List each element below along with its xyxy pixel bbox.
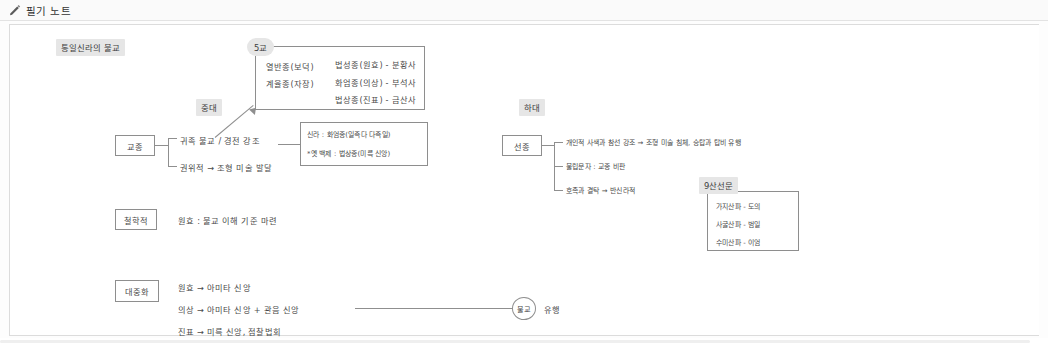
scroll-track[interactable] (0, 340, 1030, 343)
seonjong-branch-1 (554, 142, 563, 143)
nine-school-2: 사굴산파 - 범일 (716, 219, 761, 229)
sidebox-line-2: *옛 백제 : 법상종(미륵 신앙) (307, 148, 391, 158)
box-seonjong: 선종 (502, 135, 542, 156)
horizontal-scroll-strip[interactable] (0, 338, 1048, 345)
school-right-1: 법성종(원효) - 분황사 (335, 58, 416, 70)
gyojong-branch-1 (168, 138, 177, 139)
badge-nine-schools: 9산선문 (699, 177, 738, 194)
result-label-popular: 유행 (544, 303, 560, 315)
popularization-line-2: 의상 → 아미타 신앙 + 관음 신앙 (178, 303, 299, 315)
gyojong-line-2: 권위적 → 조형 미술 발달 (180, 161, 272, 173)
seonjong-stem (542, 145, 554, 146)
pencil-icon (9, 4, 21, 16)
note-app-window: 필기 노트 통일신라의 불교 5교 열반종(보덕) 계율종(자장) 법성종(원효… (0, 0, 1048, 345)
note-header: 필기 노트 (0, 0, 1048, 21)
box-seonjong-label: 선종 (503, 136, 541, 155)
popularization-line-3: 진표 → 미륵 신앙, 점찰법회 (178, 325, 281, 337)
box-gyojong: 교종 (115, 135, 155, 156)
seonjong-line-3: 호족과 결탁 → 반신라적 (566, 185, 635, 195)
nine-school-1: 가지산파 - 도의 (716, 201, 761, 211)
seonjong-branch-3 (554, 190, 563, 191)
result-circle-buddhism: 불교 (512, 297, 536, 320)
box-philosophy: 철학적 (115, 209, 157, 230)
handwriting-canvas[interactable]: 통일신라의 불교 5교 열반종(보덕) 계율종(자장) 법성종(원효) - 분황… (9, 24, 1039, 336)
school-right-2: 화엄종(의상) - 부석사 (335, 76, 416, 88)
note-main-title: 통일신라의 불교 (56, 39, 125, 56)
box-gyojong-label: 교종 (116, 136, 154, 155)
canvas-right-fade (1021, 25, 1039, 335)
badge-five-schools: 5교 (247, 38, 274, 56)
nine-school-3: 수미산파 - 이엄 (716, 237, 761, 247)
note-title-label: 필기 노트 (26, 3, 71, 18)
sidebox-line-1: 신라 : 화엄종(일즉다 다즉일) (307, 129, 391, 139)
result-circle-label: 불교 (517, 304, 531, 314)
gyojong-stem (155, 145, 168, 146)
box-popularization: 대중화 (115, 280, 159, 302)
badge-middle-period: 중대 (196, 99, 222, 116)
badge-late-period: 하대 (519, 99, 545, 116)
seonjong-branch-2 (554, 166, 563, 167)
school-left-1: 열반종(보덕) (266, 60, 314, 72)
philosophy-line-1: 원효 : 불교 이해 기준 마련 (178, 214, 277, 226)
seonjong-line-2: 불립문자 : 교종 비판 (566, 161, 625, 171)
school-left-2: 계율종(자장) (266, 77, 314, 89)
school-right-3: 법상종(진표) - 금산사 (335, 93, 416, 105)
seonjong-line-1: 개인적 사색과 참선 강조 → 조형 미술 침체, 승탑과 탑비 유행 (566, 137, 741, 147)
gyojong-branch-2 (168, 166, 177, 167)
box-popularization-label: 대중화 (116, 281, 158, 301)
gyojong-bracket (168, 138, 169, 166)
gyojong-line-1: 귀족 불교 / 경전 강조 (180, 134, 260, 146)
popularization-line-1: 원효 → 아미타 신앙 (178, 281, 251, 293)
popularization-to-result-line (355, 308, 512, 309)
gyojong-to-sidebox-line (278, 144, 300, 145)
box-philosophy-label: 철학적 (116, 210, 156, 229)
